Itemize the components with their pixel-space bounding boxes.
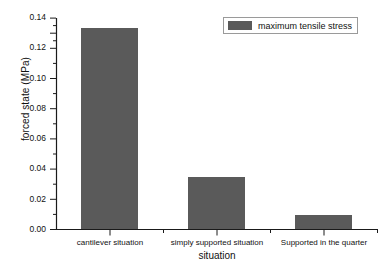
bar-simply-supported-situation xyxy=(188,177,245,229)
legend-swatch-maximum-tensile-stress xyxy=(228,21,252,30)
chart-legend: maximum tensile stress xyxy=(223,17,358,34)
bar-supported-in-the-quarter xyxy=(295,215,352,229)
y-tick-label-012: 0.12 xyxy=(16,43,46,52)
y-tick-label-008: 0.08 xyxy=(16,104,46,113)
y-tick-label-002: 0.02 xyxy=(16,195,46,204)
legend-label-maximum-tensile-stress: maximum tensile stress xyxy=(258,21,352,31)
x-axis-title: situation xyxy=(56,250,378,261)
y-tick-label-014: 0.14 xyxy=(16,13,46,22)
bar-chart-figure: forced state (MPa) 0.14 0.12 0.10 0.08 0… xyxy=(0,0,392,272)
y-minor-ticks xyxy=(53,26,56,215)
bar-cantilever-situation xyxy=(81,28,138,229)
y-major-ticks xyxy=(50,33,56,229)
x-tick-label-supported-quarter: Supported in the quarter xyxy=(264,238,384,247)
y-tick-label-006: 0.06 xyxy=(16,134,46,143)
y-tick-label-000: 0.00 xyxy=(16,225,46,234)
chart-axes xyxy=(0,0,392,272)
x-tick-label-cantilever: cantilever situation xyxy=(55,238,165,247)
x-tick-label-simply-supported: simply supported situation xyxy=(155,238,279,247)
x-major-ticks xyxy=(110,230,324,236)
y-tick-label-010: 0.10 xyxy=(16,74,46,83)
y-tick-label-004: 0.04 xyxy=(16,164,46,173)
